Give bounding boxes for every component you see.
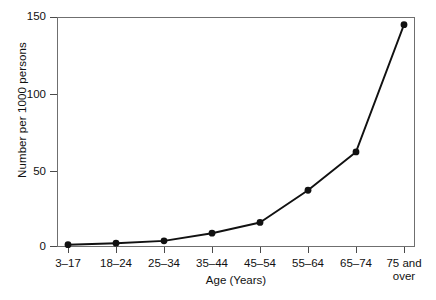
- x-axis-ticks: [69, 247, 405, 253]
- x-axis-title: Age (Years): [57, 274, 415, 286]
- y-axis-title: Number per 1000 persons: [16, 10, 28, 210]
- y-axis-ticks: [50, 18, 57, 247]
- y-tick-label-0: 0: [12, 241, 46, 253]
- chart-figure: 150 100 50 0 Number per 1000 persons 3–1…: [0, 0, 436, 300]
- plot-area: [57, 17, 415, 247]
